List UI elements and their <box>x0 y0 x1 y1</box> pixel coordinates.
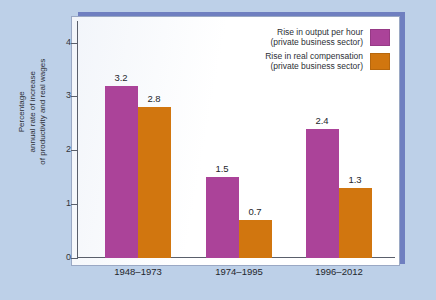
y-axis-tick-label-wrap: 4 <box>45 43 71 44</box>
y-axis-tick-mark <box>71 258 78 259</box>
bar[interactable] <box>105 86 138 258</box>
legend-swatch-icon <box>370 53 390 70</box>
y-axis-tick-label: 1 <box>49 199 71 208</box>
y-axis-tick-label: 3 <box>49 91 71 100</box>
bar-value-label: 1.5 <box>215 164 228 174</box>
legend-item-label: Rise in output per hour (private busines… <box>270 27 370 47</box>
y-axis-tick-mark <box>71 150 78 151</box>
y-axis-tick-mark <box>71 43 78 44</box>
bar[interactable] <box>239 220 272 258</box>
y-axis-title: Percentage annual rate of increase of pr… <box>17 32 49 192</box>
bar-value-label: 1.3 <box>348 175 361 185</box>
y-axis-tick-label: 4 <box>49 38 71 47</box>
bar-value-label: 2.8 <box>147 94 160 104</box>
y-axis-tick-label: 0 <box>49 253 71 262</box>
y-axis-tick-label: 2 <box>49 145 71 154</box>
y-axis-tick-label-wrap: 0 <box>45 258 71 259</box>
x-axis-category-label: 1996–2012 <box>294 266 384 277</box>
legend-swatch-icon <box>370 29 390 46</box>
bar-value-label: 2.4 <box>315 116 328 126</box>
x-axis-category-label: 1948–1973 <box>93 266 183 277</box>
x-axis-category-label: 1974–1995 <box>194 266 284 277</box>
bar-chart-figure: Percentage annual rate of increase of pr… <box>0 0 436 300</box>
y-axis-tick-label-wrap: 1 <box>45 204 71 205</box>
bar-value-label: 3.2 <box>114 73 127 83</box>
bar[interactable] <box>138 107 171 258</box>
legend-item-real-compensation[interactable]: Rise in real compensation (private busin… <box>222 51 390 71</box>
y-axis-tick-label-wrap: 3 <box>45 96 71 97</box>
bar[interactable] <box>306 129 339 258</box>
legend-item-label: Rise in real compensation (private busin… <box>265 51 370 71</box>
bar-group: 3.22.8 <box>105 21 171 258</box>
y-axis-tick-mark <box>71 204 78 205</box>
bar[interactable] <box>206 177 239 258</box>
bar[interactable] <box>339 188 372 258</box>
chart-legend: Rise in output per hour (private busines… <box>222 27 390 75</box>
bar-value-label: 0.7 <box>248 207 261 217</box>
legend-item-output-per-hour[interactable]: Rise in output per hour (private busines… <box>222 27 390 47</box>
y-axis-tick-label-wrap: 2 <box>45 150 71 151</box>
y-axis-tick-mark <box>71 96 78 97</box>
